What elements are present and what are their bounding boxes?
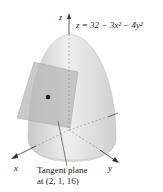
z-axis-label: z	[59, 13, 62, 22]
z-axis-arrow	[67, 13, 71, 19]
tangent-point	[46, 95, 51, 100]
surface-equation: z = 32 − 3x² − 4y²	[76, 20, 143, 30]
y-axis-arrow	[112, 157, 119, 163]
x-axis-label: x	[14, 163, 18, 173]
caption-line-2: at (2, 1, 16)	[37, 176, 79, 186]
caption-line-1: Tangent plane	[37, 165, 88, 175]
x-axis-arrow	[11, 153, 18, 159]
y-axis-label: y	[108, 163, 112, 173]
